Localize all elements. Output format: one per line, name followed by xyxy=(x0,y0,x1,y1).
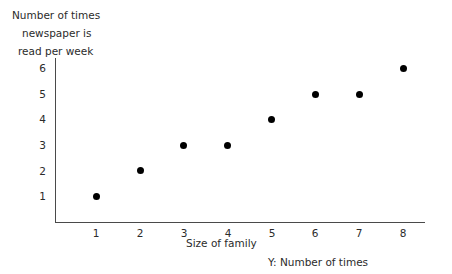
data-point xyxy=(268,116,275,123)
y-axis-line xyxy=(55,58,56,223)
data-point xyxy=(93,193,100,200)
data-point xyxy=(137,167,144,174)
x-tick-label-5: 5 xyxy=(264,228,280,239)
y-tick-label-6: 6 xyxy=(30,63,46,74)
x-tick-label-6: 6 xyxy=(307,228,323,239)
x-axis-title: Size of family xyxy=(186,237,257,249)
y-tick-label-5: 5 xyxy=(30,89,46,100)
data-point xyxy=(356,91,363,98)
scatter-plot-screenshot: Number of times newspaper is read per we… xyxy=(0,0,452,274)
x-tick-label-1: 1 xyxy=(88,228,104,239)
y-tick-label-1: 1 xyxy=(30,191,46,202)
x-tick-label-8: 8 xyxy=(395,228,411,239)
bottom-caption: Y: Number of times xyxy=(268,256,368,268)
x-tick-label-7: 7 xyxy=(351,228,367,239)
y-tick-label-2: 2 xyxy=(30,166,46,177)
data-point xyxy=(400,65,407,72)
data-point xyxy=(224,142,231,149)
y-tick-label-4: 4 xyxy=(30,114,46,125)
plot-area: 6 5 4 3 2 1 1 2 3 4 5 6 7 8 Size of fami… xyxy=(0,0,452,274)
data-point xyxy=(180,142,187,149)
x-tick-label-2: 2 xyxy=(132,228,148,239)
data-point xyxy=(312,91,319,98)
y-tick-label-3: 3 xyxy=(30,140,46,151)
x-axis-line xyxy=(55,222,425,223)
